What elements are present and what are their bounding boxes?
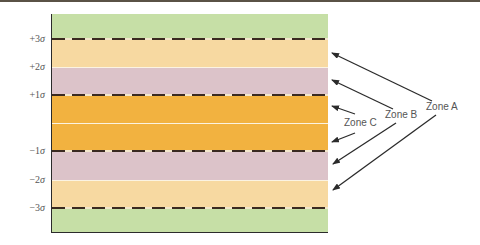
arrow-zone-b-lower xyxy=(333,123,396,164)
arrow-zone-c-lower xyxy=(332,133,355,142)
zone-arrows xyxy=(0,0,480,245)
arrow-zone-c-upper xyxy=(332,106,355,114)
arrow-zone-b-upper xyxy=(332,80,393,109)
zone-a-label: Zone A xyxy=(426,101,458,113)
zone-c-label: Zone C xyxy=(344,117,377,129)
arrow-zone-a-upper xyxy=(332,53,432,101)
zone-b-label: Zone B xyxy=(385,109,417,121)
